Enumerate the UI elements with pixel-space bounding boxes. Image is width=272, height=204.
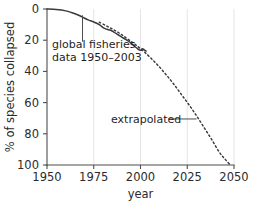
y-tick-label-80: 80: [24, 127, 39, 141]
species-collapse-line-chart: 0 20 40 60 80 100 1950 1975 2000 2025 20…: [0, 0, 272, 204]
x-tick-label-2050: 2050: [219, 170, 248, 184]
y-tick-label-60: 60: [24, 96, 39, 110]
x-tick-labels: 1950 1975 2000 2025 2050: [32, 170, 248, 184]
x-tick-label-2000: 2000: [126, 170, 155, 184]
y-tick-label-20: 20: [24, 33, 39, 47]
extrapolated-annotation-label: extrapolated: [111, 113, 181, 126]
y-tick-marks: [43, 9, 47, 165]
y-tick-labels: 0 20 40 60 80 100: [17, 2, 39, 172]
chart-figure: 0 20 40 60 80 100 1950 1975 2000 2025 20…: [0, 0, 272, 204]
x-axis-title: year: [128, 187, 154, 201]
y-tick-label-0: 0: [32, 2, 39, 16]
x-tick-label-1975: 1975: [79, 170, 108, 184]
x-tick-marks: [47, 165, 234, 169]
x-tick-label-1950: 1950: [32, 170, 61, 184]
data-annotation-line2: data 1950–2003: [52, 51, 142, 64]
y-axis-title: % of species collapsed: [3, 22, 17, 152]
data-annotation-line1: global fisheries: [52, 38, 136, 51]
x-tick-label-2025: 2025: [173, 170, 202, 184]
y-tick-label-40: 40: [24, 64, 39, 78]
